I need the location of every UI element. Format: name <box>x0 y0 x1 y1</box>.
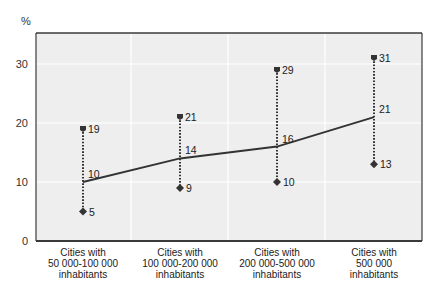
min-value-label: 9 <box>186 182 192 194</box>
x-category-label: inhabitants <box>253 269 301 280</box>
x-category-label: 50 000-100 000 <box>48 258 119 269</box>
x-category-label: 200 000-500 000 <box>239 258 315 269</box>
x-category-label: inhabitants <box>350 269 398 280</box>
min-value-label: 10 <box>283 176 295 188</box>
y-axis: %0102030 <box>16 15 31 247</box>
min-value-label: 5 <box>89 206 95 218</box>
max-value-label: 31 <box>379 52 391 64</box>
y-tick-label: 0 <box>22 235 28 247</box>
average-value-label: 14 <box>185 144 197 156</box>
max-value-label: 21 <box>185 111 197 123</box>
chart: %0102030 Cities with50 000-100 000inhabi… <box>0 0 439 288</box>
x-category-label: 100 000-200 000 <box>142 258 218 269</box>
x-category-label: inhabitants <box>59 269 107 280</box>
average-value-label: 16 <box>282 133 294 145</box>
x-category-label: Cities with <box>60 247 106 258</box>
x-category-label: 500 000 <box>356 258 393 269</box>
y-tick-label: 30 <box>16 58 28 70</box>
x-category-label: inhabitants <box>156 269 204 280</box>
min-value-label: 13 <box>380 158 392 170</box>
y-tick-label: 10 <box>16 176 28 188</box>
x-category-label: Cities with <box>254 247 300 258</box>
y-axis-unit-label: % <box>21 15 31 27</box>
average-value-label: 21 <box>379 103 391 115</box>
max-value-label: 19 <box>88 123 100 135</box>
y-tick-label: 20 <box>16 117 28 129</box>
max-value-label: 29 <box>282 64 294 76</box>
x-axis: Cities with50 000-100 000inhabitantsCiti… <box>48 247 398 280</box>
average-value-label: 10 <box>88 168 100 180</box>
x-category-label: Cities with <box>157 247 203 258</box>
x-category-label: Cities with <box>351 247 397 258</box>
